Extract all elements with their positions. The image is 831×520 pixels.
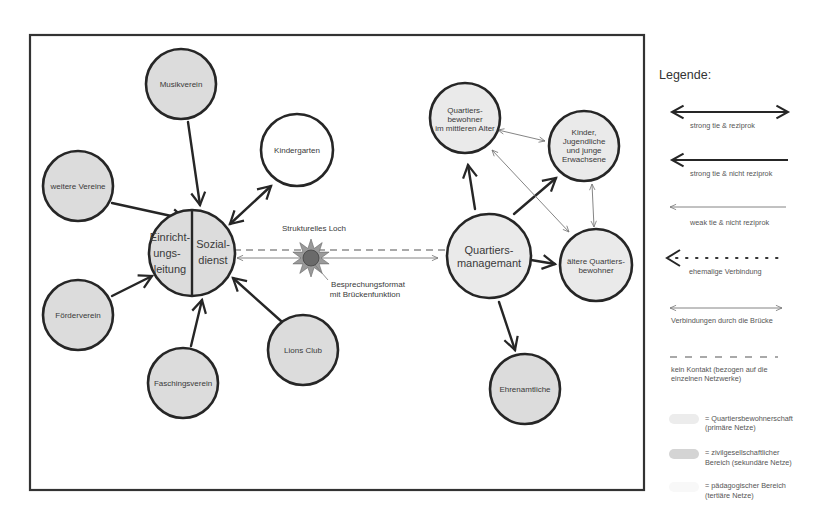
svg-text:Faschingsverein: Faschingsverein	[154, 379, 212, 388]
legend-item-weak-nonreciprocal: weak tie & nicht reziprok	[670, 207, 786, 227]
edge-fasching-to-center	[191, 300, 202, 346]
svg-text:ältere Quartiers-: ältere Quartiers-	[567, 257, 625, 266]
svg-text:strong tie & nicht reziprok: strong tie & nicht reziprok	[690, 169, 773, 178]
svg-text:Quartiers-: Quartiers-	[465, 244, 514, 256]
edge-qm-to-ehrenamtliche	[499, 302, 515, 350]
edge-center-kindergarten	[230, 186, 271, 224]
legend-title: Legende:	[659, 68, 711, 82]
node-musikverein: Musikverein	[146, 49, 216, 119]
center-left-line2: ungs-	[153, 247, 181, 259]
svg-text:= zivilgesellschaftlicher: = zivilgesellschaftlicher	[705, 448, 780, 457]
edge-qm-to-mittleres	[468, 165, 475, 209]
svg-text:strong tie & reziprok: strong tie & reziprok	[690, 121, 755, 130]
svg-text:Musikverein: Musikverein	[160, 80, 203, 89]
svg-text:(primäre Netze): (primäre Netze)	[705, 423, 756, 432]
svg-text:ehemalige Verbindung: ehemalige Verbindung	[689, 267, 762, 276]
svg-text:einzelnen Netzwerke): einzelnen Netzwerke)	[671, 374, 741, 383]
node-mittleres-alter: Quartiers- bewohner im mittleren Alter	[430, 83, 500, 153]
svg-text:= pädagogischer Bereich: = pädagogischer Bereich	[705, 481, 786, 490]
legend-swatch-secondary: = zivilgesellschaftlicher Bereich (sekun…	[669, 448, 792, 467]
node-kinder-jugendliche: Kinder, Jugendliche und junge Erwachsene	[549, 111, 619, 181]
edge-qm-to-aeltere	[531, 260, 555, 264]
bridge-label-line2: mit Brückenfunktion	[330, 290, 400, 299]
svg-text:Jugendliche: Jugendliche	[563, 137, 606, 146]
svg-text:Kindergarten: Kindergarten	[274, 146, 320, 155]
svg-text:Ehrenamtliche: Ehrenamtliche	[499, 385, 551, 394]
edge-musikverein-to-center	[188, 122, 200, 205]
edge-lions-to-center	[233, 278, 281, 321]
node-ehrenamtliche: Ehrenamtliche	[490, 354, 560, 424]
legend-item-former-connection: ehemalige Verbindung	[667, 250, 785, 276]
structural-hole-label: Strukturelles Loch	[282, 224, 346, 233]
center-left-line1: Einricht-	[150, 231, 191, 243]
svg-text:(tertiäre Netze): (tertiäre Netze)	[705, 491, 754, 500]
svg-text:Lions Club: Lions Club	[284, 346, 322, 355]
social-network-diagram: Strukturelles Loch Besprechungsformat mi…	[0, 0, 831, 520]
structural-hole-star	[293, 239, 329, 280]
edge-mittleres-kinder	[498, 130, 545, 141]
svg-text:= Quartiersbewohnerschaft: = Quartiersbewohnerschaft	[705, 414, 793, 423]
node-faschingsverein: Faschingsverein	[148, 348, 218, 418]
bridge-point	[303, 250, 319, 266]
svg-text:Förderverein: Förderverein	[55, 311, 100, 320]
svg-text:Bereich (sekundäre Netze): Bereich (sekundäre Netze)	[705, 458, 792, 467]
svg-text:bewohner: bewohner	[447, 115, 482, 124]
center-right-line2: dienst	[198, 254, 227, 266]
legend-item-strong-nonreciprocal: strong tie & nicht reziprok	[672, 160, 788, 178]
legend: Legende: strong tie & reziprok strong ti…	[659, 68, 793, 500]
node-kindergarten: Kindergarten	[261, 114, 333, 186]
center-left-line3: leitung	[154, 263, 186, 275]
svg-text:weak tie & nicht reziprok: weak tie & nicht reziprok	[689, 218, 769, 227]
svg-text:weitere Vereine: weitere Vereine	[49, 182, 106, 191]
node-quartiersmanagement: Quartiers- managemant	[447, 214, 531, 298]
legend-item-strong-reciprocal: strong tie & reziprok	[672, 112, 788, 130]
svg-text:Verbindungen durch die Brücke: Verbindungen durch die Brücke	[671, 316, 773, 325]
node-einrichtungsleitung-sozialdienst: Einricht- ungs- leitung Sozial- dienst	[149, 210, 235, 296]
legend-swatch-tertiary: = pädagogischer Bereich (tertiäre Netze)	[669, 481, 786, 500]
svg-text:kein Kontakt (bezogen auf die: kein Kontakt (bezogen auf die	[671, 365, 768, 374]
node-foerderverein: Förderverein	[43, 280, 113, 350]
bridge-pointer	[315, 265, 328, 280]
svg-text:bewohner: bewohner	[578, 266, 613, 275]
svg-text:im mittleren Alter: im mittleren Alter	[435, 124, 495, 133]
svg-text:und junge: und junge	[566, 146, 602, 155]
edge-kinder-aeltere	[592, 184, 594, 227]
bridge-label-line1: Besprechungsformat	[331, 280, 406, 289]
legend-item-no-contact: kein Kontakt (bezogen auf die einzelnen …	[670, 357, 778, 383]
node-lions-club: Lions Club	[268, 315, 338, 385]
edge-foerderverein-to-center	[112, 276, 152, 296]
svg-text:managemant: managemant	[457, 257, 521, 269]
svg-text:Erwachsene: Erwachsene	[562, 155, 607, 164]
legend-item-bridge-connection: Verbindungen durch die Brücke	[670, 308, 782, 325]
node-aeltere-bewohner: ältere Quartiers- bewohner	[560, 229, 632, 301]
center-right-line1: Sozial-	[196, 238, 230, 250]
node-weitere-vereine: weitere Vereine	[43, 151, 113, 221]
legend-swatch-primary: = Quartiersbewohnerschaft (primäre Netze…	[669, 414, 793, 432]
svg-text:Quartiers-: Quartiers-	[447, 106, 483, 115]
svg-text:Kinder,: Kinder,	[572, 128, 597, 137]
